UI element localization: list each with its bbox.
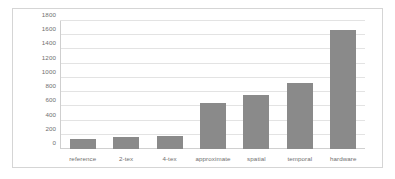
x-axis-tick-label: reference — [69, 155, 96, 162]
x-axis-tick-label: approximate — [195, 155, 230, 162]
x-axis-tick-label: 2-tex — [119, 155, 133, 162]
y-axis-tick-label: 1800 — [42, 11, 56, 18]
bar — [157, 136, 183, 149]
bar-chart-figure: 020040060080010001200140016001800 refere… — [12, 8, 383, 168]
y-axis-tick-label: 800 — [45, 82, 56, 89]
y-axis-tick-label: 1400 — [42, 39, 56, 46]
y-axis-tick-label: 200 — [45, 124, 56, 131]
x-axis-tick-label: temporal — [287, 155, 312, 162]
y-axis-tick-label: 1600 — [42, 25, 56, 32]
bar-group: spatial — [235, 21, 278, 149]
bar-group: approximate — [191, 21, 234, 149]
x-axis-tick-label: spatial — [247, 155, 266, 162]
x-axis-tick-label: 4-tex — [162, 155, 176, 162]
bar-group: 4-tex — [148, 21, 191, 149]
bar — [70, 139, 96, 149]
y-axis-tick-label: 1000 — [42, 67, 56, 74]
bar-group: hardware — [322, 21, 365, 149]
bar — [330, 30, 356, 149]
bar-group: temporal — [278, 21, 321, 149]
x-axis-tick-label: hardware — [330, 155, 357, 162]
bar — [200, 103, 226, 149]
bars-series: reference2-tex4-texapproximatespatialtem… — [61, 21, 365, 149]
y-axis-tick-label: 400 — [45, 110, 56, 117]
plot-area: 020040060080010001200140016001800 refere… — [60, 21, 365, 149]
bar-group: 2-tex — [104, 21, 147, 149]
bar-group: reference — [61, 21, 104, 149]
bar — [243, 95, 269, 149]
y-axis-tick-label: 0 — [52, 139, 56, 146]
y-axis-tick-label: 1200 — [42, 53, 56, 60]
y-axis-tick-label: 600 — [45, 96, 56, 103]
bar — [113, 137, 139, 149]
bar — [287, 83, 313, 149]
